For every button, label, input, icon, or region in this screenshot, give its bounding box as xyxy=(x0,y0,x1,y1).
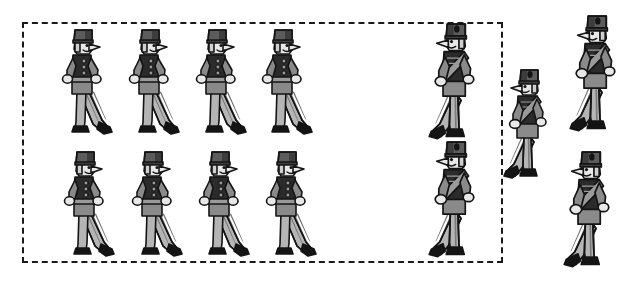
illustration-canvas xyxy=(0,0,638,282)
soldier-row2-col4[interactable] xyxy=(262,150,320,262)
soldier-row1-col3[interactable] xyxy=(192,28,250,140)
soldier-row2-col3[interactable] xyxy=(195,150,253,262)
soldier-outside-top-left[interactable] xyxy=(425,22,486,147)
soldier-outside-bottom-left[interactable] xyxy=(425,140,486,265)
soldier-outside-middle[interactable] xyxy=(500,68,558,186)
soldier-row1-col2[interactable] xyxy=(125,28,183,140)
soldier-row1-col4[interactable] xyxy=(258,28,316,140)
soldier-outside-top-right[interactable] xyxy=(566,14,627,139)
soldier-row1-col1[interactable] xyxy=(58,28,116,140)
soldier-row2-col1[interactable] xyxy=(60,150,118,262)
soldier-outside-bottom-right[interactable] xyxy=(560,150,621,275)
soldier-row2-col2[interactable] xyxy=(128,150,186,262)
